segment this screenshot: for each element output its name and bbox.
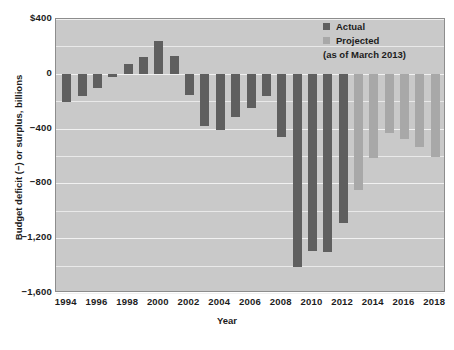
bar-2008 xyxy=(277,74,286,137)
gridline xyxy=(56,19,444,20)
y-tick-label: −1,200 xyxy=(0,231,52,242)
legend-item-actual: Actual xyxy=(323,21,406,32)
gridline xyxy=(56,293,444,294)
legend-item-projected: Projected xyxy=(323,35,406,46)
gridline xyxy=(56,266,444,267)
y-tick-label: −1,600 xyxy=(0,286,52,297)
chart-legend: Actual Projected (as of March 2013) xyxy=(323,21,406,63)
bar-2010 xyxy=(308,74,317,251)
bar-2001 xyxy=(170,56,179,74)
bar-2005 xyxy=(231,74,240,118)
y-tick-label: −400 xyxy=(0,122,52,133)
gridline xyxy=(56,156,444,157)
bar-2015 xyxy=(385,74,394,133)
gridline xyxy=(56,238,444,239)
bar-1994 xyxy=(62,74,71,102)
legend-note-row: (as of March 2013) xyxy=(323,49,406,60)
bar-2016 xyxy=(400,74,409,139)
bar-2009 xyxy=(293,74,302,268)
bar-2018 xyxy=(431,74,440,157)
bar-2011 xyxy=(323,74,332,252)
bar-2013 xyxy=(354,74,363,190)
gridline xyxy=(56,211,444,212)
bar-2017 xyxy=(415,74,424,147)
y-tick-label: 0 xyxy=(0,67,52,78)
bar-2000 xyxy=(154,41,163,73)
legend-swatch-projected-icon xyxy=(323,37,330,44)
bar-1998 xyxy=(124,64,133,73)
y-tick-label: −800 xyxy=(0,176,52,187)
bar-1996 xyxy=(93,74,102,89)
y-axis-title: Budget deficit (−) or surplus, billions xyxy=(13,58,24,258)
bar-2012 xyxy=(339,74,348,223)
bar-2002 xyxy=(185,74,194,96)
legend-note: (as of March 2013) xyxy=(323,49,406,60)
gridline xyxy=(56,183,444,184)
bar-2003 xyxy=(200,74,209,126)
legend-swatch-actual-icon xyxy=(323,23,330,30)
bar-1995 xyxy=(78,74,87,96)
bar-2004 xyxy=(216,74,225,131)
bar-2007 xyxy=(262,74,271,96)
y-tick-label: $400 xyxy=(0,12,52,23)
bar-1999 xyxy=(139,57,148,74)
bar-2014 xyxy=(369,74,378,158)
chart-figure: $4000−400−800−1,200−1,600 Budget deficit… xyxy=(0,0,454,350)
x-axis-title: Year xyxy=(0,315,454,326)
x-tick-label: 2018 xyxy=(414,296,454,307)
legend-label-actual: Actual xyxy=(336,21,365,32)
bar-1997 xyxy=(108,74,117,77)
legend-label-projected: Projected xyxy=(336,35,379,46)
bar-2006 xyxy=(247,74,256,108)
